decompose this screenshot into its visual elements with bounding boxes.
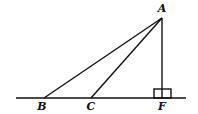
geometry-diagram: A B C F	[0, 0, 198, 114]
segment-ac	[91, 18, 162, 98]
label-f: F	[157, 100, 167, 113]
label-c: C	[87, 100, 96, 113]
label-a: A	[157, 2, 167, 15]
label-b: B	[36, 100, 46, 113]
segment-ab	[44, 18, 162, 98]
